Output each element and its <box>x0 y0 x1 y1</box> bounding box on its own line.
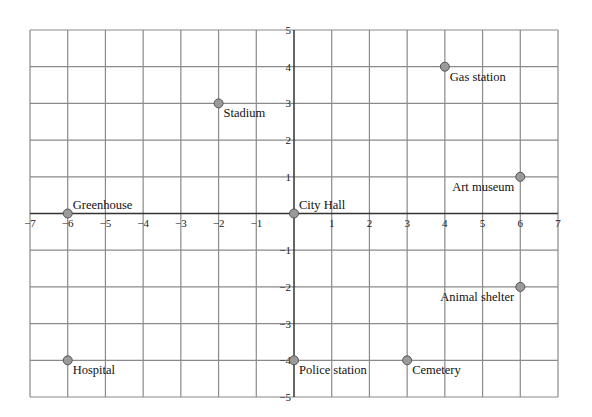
y-tick-label: 2 <box>286 134 292 146</box>
x-tick-label: −4 <box>137 217 149 229</box>
x-tick-label: 2 <box>367 217 373 229</box>
point-label: Greenhouse <box>73 198 133 212</box>
y-tick-label: −1 <box>279 244 291 256</box>
x-tick-label: −5 <box>100 217 112 229</box>
x-tick-label: −3 <box>175 217 187 229</box>
point-label: Cemetery <box>412 363 461 377</box>
x-tick-label: −1 <box>250 217 262 229</box>
coordinate-plane: −7−6−5−4−3−2−11234567−5−4−3−2−112345 Sta… <box>0 0 592 417</box>
point-marker-icon <box>63 209 72 218</box>
point-stadium: Stadium <box>214 99 265 121</box>
y-tick-label: 4 <box>286 61 292 73</box>
point-label: Art museum <box>452 180 514 194</box>
x-tick-label: 3 <box>404 217 410 229</box>
y-tick-label: −3 <box>279 318 291 330</box>
y-tick-label: 1 <box>286 171 292 183</box>
x-tick-label: −7 <box>24 217 36 229</box>
point-marker-icon <box>440 62 449 71</box>
x-tick-label: 1 <box>329 217 335 229</box>
point-label: Hospital <box>73 363 116 377</box>
point-greenhouse: Greenhouse <box>63 198 133 219</box>
point-cemetery: Cemetery <box>403 356 462 378</box>
point-label: Stadium <box>224 106 266 120</box>
point-marker-icon <box>290 356 299 365</box>
point-art-museum: Art museum <box>452 172 525 194</box>
x-tick-label: 5 <box>480 217 486 229</box>
y-tick-label: 5 <box>286 24 292 36</box>
point-label: Gas station <box>450 70 507 84</box>
point-marker-icon <box>403 356 412 365</box>
point-marker-icon <box>516 172 525 181</box>
y-tick-label: −2 <box>279 281 291 293</box>
point-police-station: Police station <box>290 356 368 378</box>
point-label: Police station <box>299 363 367 377</box>
x-tick-label: 4 <box>442 217 448 229</box>
y-tick-label: −5 <box>279 391 291 403</box>
point-label: City Hall <box>299 198 346 212</box>
point-marker-icon <box>290 209 299 218</box>
point-marker-icon <box>214 99 223 108</box>
point-city-hall: City Hall <box>290 198 346 219</box>
x-tick-label: −2 <box>213 217 225 229</box>
point-gas-station: Gas station <box>440 62 506 84</box>
y-tick-label: 3 <box>286 97 292 109</box>
x-tick-label: 6 <box>518 217 524 229</box>
point-marker-icon <box>516 282 525 291</box>
x-tick-label: 7 <box>555 217 561 229</box>
point-marker-icon <box>63 356 72 365</box>
point-label: Animal shelter <box>440 290 515 304</box>
point-hospital: Hospital <box>63 356 115 378</box>
